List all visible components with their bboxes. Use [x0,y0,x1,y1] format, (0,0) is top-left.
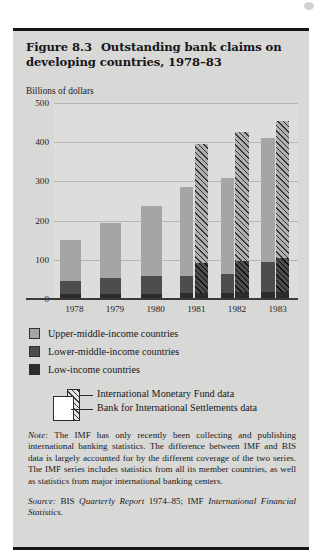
bar-segment-upper [100,223,121,278]
x-tick-label-1981: 1981 [187,304,205,314]
bar-segment-lower [235,261,248,293]
bar-groups [54,104,298,300]
bis-leader-line [71,409,93,410]
bar-segment-lower [195,263,208,293]
bar-segment-upper [141,206,162,276]
bar-segment-upper [180,187,193,276]
bar-segment-lower [221,274,234,293]
bar-segment-lower [100,278,121,294]
bar-1980-imf [141,207,162,300]
note-lead: Note: [28,430,48,440]
source-part3: . [61,507,63,517]
x-axis-labels: 197819791980198119821983 [54,304,298,320]
x-tick-label-1980: 1980 [146,304,164,314]
y-tick-label-100: 100 [35,255,49,265]
figure-note: Note: The IMF has only recently been col… [28,430,296,487]
bar-segment-lower [261,262,274,292]
imf-leader-line [79,395,93,396]
x-tick-label-1983: 1983 [268,304,286,314]
source-key-glyph [53,389,89,421]
bar-segment-upper [276,121,289,258]
source-lead: Source: [28,496,56,506]
legend-item-low: Low-income countries [29,360,293,378]
category-legend: Upper-middle-income countriesLower-middl… [29,324,293,378]
panel-bottom-rule [13,547,309,550]
bar-segment-upper [261,138,274,261]
y-tick-label-300: 300 [35,176,49,186]
y-tick-label-500: 500 [35,98,49,108]
bar-1981-bis [195,145,208,300]
x-axis-baseline [26,298,298,300]
bar-1978-imf [60,241,81,300]
bar-segment-upper [195,144,208,263]
figure-title: Figure 8.3Outstanding bank claims on dev… [26,40,294,69]
source-italic1: Quarterly Report [79,496,144,506]
source-part2: 1974–85; IMF [144,496,208,506]
legend-label-low: Low-income countries [48,364,140,375]
figure-source: Source: BIS Quarterly Report 1974–85; IM… [28,496,296,519]
bis-source-label: Bank for International Settlements data [97,402,257,413]
bar-1983-bis [276,122,289,300]
bar-segment-upper [235,132,248,260]
bar-group-1978 [54,104,95,300]
source-part1: BIS [56,496,79,506]
bar-segment-lower [180,276,193,293]
bar-1983-imf [261,139,274,300]
y-tick-label-200: 200 [35,216,49,226]
legend-swatch-low-icon [29,364,40,375]
legend-label-upper: Upper-middle-income countries [48,328,178,339]
page-corner-mark [304,2,314,10]
y-tick-label-400: 400 [35,137,49,147]
bar-segment-upper [221,178,234,273]
bar-group-1981 [176,104,217,300]
bar-group-1980 [135,104,176,300]
bar-segment-upper [60,240,81,281]
x-tick-label-1982: 1982 [228,304,246,314]
note-text: The IMF has only recently been collectin… [28,430,296,486]
legend-item-upper: Upper-middle-income countries [29,324,293,342]
x-tick-label-1979: 1979 [106,304,124,314]
chart-plot-area: 0100200300400500 [54,104,298,300]
y-axis-units-label: Billions of dollars [26,86,94,96]
data-source-key: International Monetary Fund data Bank fo… [53,388,293,422]
bar-group-1979 [95,104,136,300]
bar-segment-lower [276,258,289,292]
bar-1982-bis [235,133,248,300]
imf-source-label: International Monetary Fund data [97,388,234,399]
bar-group-1982 [217,104,258,300]
bar-segment-lower [60,281,81,294]
figure-number: Figure 8.3 [26,40,92,54]
legend-swatch-upper-icon [29,328,40,339]
bar-1981-imf [180,188,193,300]
bar-1979-imf [100,224,121,300]
chart-plot-wrapper: 0100200300400500 19781979198019811982198… [26,100,298,358]
bar-1982-imf [221,179,234,300]
bar-segment-lower [141,276,162,293]
panel-top-rule [13,28,309,31]
legend-item-lower: Lower-middle-income countries [29,342,293,360]
legend-swatch-lower-icon [29,346,40,357]
legend-label-lower: Lower-middle-income countries [48,346,179,357]
bar-group-1983 [257,104,298,300]
figure-panel: Figure 8.3Outstanding bank claims on dev… [13,28,309,550]
x-tick-label-1978: 1978 [65,304,83,314]
figure-page: Figure 8.3Outstanding bank claims on dev… [0,0,322,558]
